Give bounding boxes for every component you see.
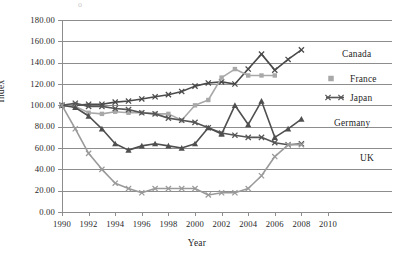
data-point-marker — [232, 102, 238, 108]
data-point-marker — [206, 98, 210, 102]
x-tick — [248, 212, 249, 216]
legend-swatch-x-icon — [352, 152, 356, 163]
legend-swatch-triangle-icon — [326, 117, 330, 128]
data-point-marker — [258, 98, 264, 104]
y-tick-label: 180.00 — [7, 15, 55, 25]
y-tick-label: 160.00 — [7, 36, 55, 46]
y-tick-label: 80.00 — [7, 121, 55, 131]
x-tick — [142, 212, 143, 216]
y-tick-label: 120.00 — [7, 79, 55, 89]
y-axis-title: Index — [0, 56, 6, 126]
plot-area: 0.0020.0040.0060.0080.00100.00120.00140.… — [62, 20, 328, 212]
x-tick — [328, 212, 329, 216]
data-point-marker — [233, 67, 237, 71]
x-tick-label: 2010 — [308, 219, 348, 229]
data-point-marker — [246, 73, 250, 77]
data-point-marker — [299, 47, 304, 52]
y-tick-label: 100.00 — [7, 100, 55, 110]
legend-item-japan[interactable]: Japan — [326, 92, 372, 103]
x-axis-title: Year — [64, 238, 330, 248]
legend-label: Japan — [350, 93, 372, 103]
x-tick — [115, 212, 116, 216]
y-tick-label: 60.00 — [7, 143, 55, 153]
data-point-marker — [272, 154, 277, 159]
data-point-marker — [298, 116, 304, 122]
legend-swatch-x-icon — [334, 48, 338, 59]
x-tick — [222, 212, 223, 216]
legend-swatch-square-icon — [326, 73, 346, 84]
x-tick — [62, 212, 63, 216]
data-point-marker — [99, 167, 104, 172]
data-point-marker — [166, 112, 170, 116]
data-point-marker — [272, 68, 277, 73]
data-point-marker — [328, 76, 334, 82]
page-artifact-mark: o — [78, 0, 83, 9]
x-tick — [168, 212, 169, 216]
data-point-marker — [259, 52, 264, 57]
y-tick-label: 40.00 — [7, 164, 55, 174]
legend-item-germany[interactable]: Germany — [326, 117, 370, 128]
x-tick — [195, 212, 196, 216]
legend-item-canada[interactable]: Canada — [334, 48, 371, 59]
y-tick-label: 0.00 — [7, 207, 55, 217]
legend-item-france[interactable]: France — [326, 73, 377, 84]
data-point-marker — [246, 66, 251, 71]
legend-item-uk[interactable]: UK — [352, 152, 374, 163]
legend-swatch-x-icon — [326, 92, 346, 103]
series-line — [62, 101, 301, 150]
data-point-marker — [193, 103, 197, 107]
x-tick — [275, 212, 276, 216]
legend-label: Germany — [334, 118, 370, 128]
data-point-marker — [219, 75, 223, 79]
x-tick — [301, 212, 302, 216]
data-point-marker — [86, 151, 91, 156]
legend-label: Canada — [342, 49, 371, 59]
series-layer — [62, 20, 328, 212]
y-tick-label: 140.00 — [7, 57, 55, 67]
legend-label: UK — [360, 153, 374, 163]
y-tick-label: 20.00 — [7, 185, 55, 195]
data-point-marker — [273, 73, 277, 77]
data-point-marker — [259, 173, 264, 178]
data-point-marker — [259, 73, 263, 77]
data-point-marker — [100, 112, 104, 116]
data-point-marker — [286, 57, 291, 62]
series-canada — [59, 47, 304, 108]
data-point-marker — [73, 126, 78, 131]
series-line — [62, 50, 301, 105]
chart-figure: o Index Year 0.0020.0040.0060.0080.00100… — [0, 0, 400, 261]
x-tick — [89, 212, 90, 216]
legend-label: France — [350, 74, 377, 84]
